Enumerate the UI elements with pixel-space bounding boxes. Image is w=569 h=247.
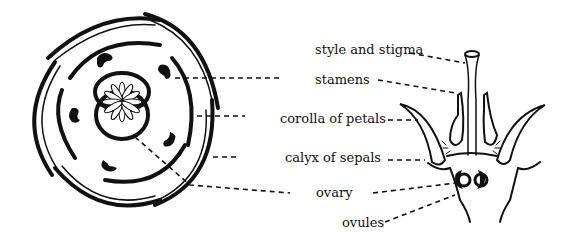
flower-diagram: style and stigma stamens corolla of peta… [0,0,569,247]
label-corolla-of-petals: corolla of petals [280,111,386,126]
label-style-and-stigma: style and stigma [315,42,424,57]
label-ovules: ovules [342,215,384,230]
floral-cross-section [34,14,218,206]
ovules-longitudinal [455,170,487,189]
stamens-longitudinal [442,93,500,154]
ovary-cross-section [95,73,149,139]
label-stamens: stamens [315,72,370,87]
style-and-stigma [465,51,479,155]
label-calyx-of-sepals: calyx of sepals [285,150,381,165]
label-ovary: ovary [316,185,353,200]
labels: style and stigma stamens corolla of peta… [280,42,424,230]
ovules-radial [102,82,142,122]
flower-longitudinal-section [400,51,545,222]
leader-lines [135,53,465,222]
